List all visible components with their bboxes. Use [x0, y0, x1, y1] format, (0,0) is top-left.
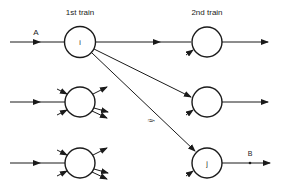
node-j-label: j	[205, 160, 208, 168]
output-arrow-b	[222, 162, 270, 165]
edge-ij-label: ij	[147, 118, 155, 123]
edge-i-to-right-2	[94, 49, 191, 97]
second-train-label: 2nd train	[191, 8, 222, 17]
output-b-label: B	[248, 150, 253, 157]
input-a-label: A	[33, 28, 39, 37]
node-i: i	[65, 27, 96, 58]
first-train-label: 1st train	[66, 8, 94, 17]
node-j: j	[186, 148, 222, 178]
edge-i-to-j	[92, 53, 195, 151]
node-left-2	[10, 87, 108, 118]
node-right-1	[186, 27, 268, 57]
node-right-2	[186, 87, 268, 117]
train-network-diagram: 1st train 2nd train A i ij	[0, 0, 281, 191]
node-left-3	[10, 148, 108, 179]
